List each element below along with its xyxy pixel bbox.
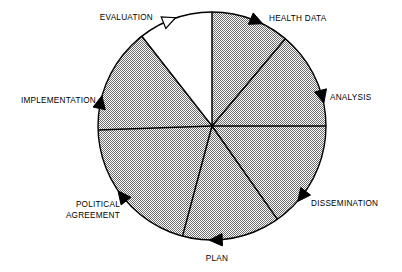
health-information-cycle-diagram: HEALTH DATAANALYSISDISSEMINATIONPLANPOLI… [0, 0, 402, 272]
sector-label-line: IMPLEMENTATION [21, 96, 96, 105]
sector-label-line: PLAN [206, 254, 228, 263]
sector-label-line: EVALUATION [100, 13, 153, 22]
sector-label-line: HEALTH DATA [269, 14, 327, 23]
sector-label-dissemination: DISSEMINATION [311, 199, 378, 208]
sector-label-implementation: IMPLEMENTATION [21, 96, 96, 105]
sector-label-line: DISSEMINATION [311, 199, 378, 208]
sector-label-analysis: ANALYSIS [330, 93, 372, 102]
wheel-canvas: HEALTH DATAANALYSISDISSEMINATIONPLANPOLI… [0, 0, 402, 272]
sector-label-health-data: HEALTH DATA [269, 14, 327, 23]
sector-label-evaluation: EVALUATION [100, 13, 153, 22]
sector-label-line: ANALYSIS [330, 93, 372, 102]
arrowhead-health-data-filled-icon [248, 13, 262, 24]
sector-label-line: AGREEMENT [66, 211, 120, 220]
sector-label-plan: PLAN [206, 254, 228, 263]
sector-label-political-agreement: POLITICALAGREEMENT [66, 200, 120, 220]
sector-label-line: POLITICAL [76, 200, 120, 209]
